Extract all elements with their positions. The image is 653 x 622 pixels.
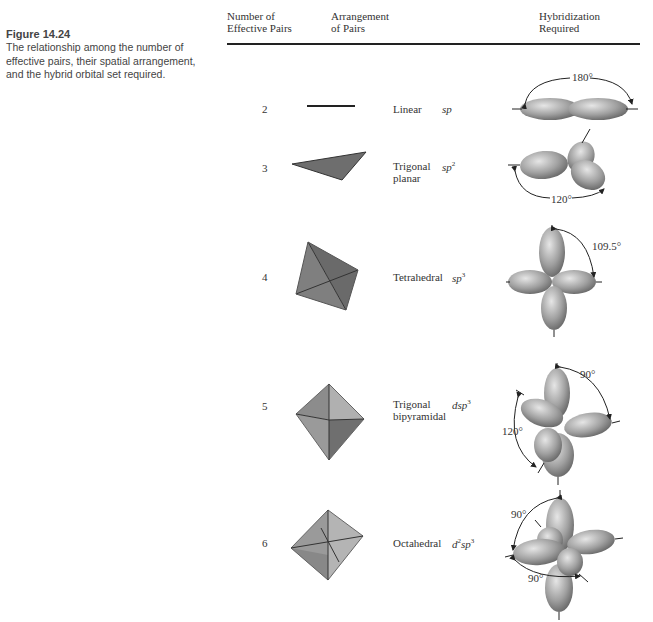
hybridization-label: sp3	[452, 271, 465, 284]
pairs-count: 4	[262, 271, 268, 283]
dsp3-orbital-icon: 90° 120°	[500, 355, 650, 490]
header-line: Hybridization	[539, 10, 600, 22]
hyb-base: sp	[442, 103, 452, 115]
header-line: Number of	[227, 10, 292, 22]
sp3-orbital-icon: 109.5°	[510, 225, 650, 335]
arrangement-label: Trigonal bipyramidal	[393, 398, 446, 422]
arrangement-label: Linear	[393, 103, 422, 115]
hyb-base: sp	[452, 272, 462, 284]
arrangement-label: Tetrahedral	[393, 271, 443, 283]
octahedral-shape-icon	[291, 510, 365, 582]
arrangement-line: Linear	[393, 103, 422, 115]
pairs-count: 5	[262, 400, 268, 412]
hyb-base: sp	[461, 538, 471, 550]
pairs-count: 6	[262, 537, 268, 549]
angle-label: 180°	[572, 71, 593, 83]
header-arrangement: Arrangement of Pairs	[331, 10, 389, 34]
header-hybridization: Hybridization Required	[539, 10, 600, 34]
hybridization-label: sp	[442, 103, 452, 115]
header-line: Effective Pairs	[227, 22, 292, 34]
hyb-superscript: 3	[462, 271, 466, 279]
arrangement-label: Octahedral	[393, 537, 441, 549]
header-line: Required	[539, 22, 600, 34]
hyb-superscript: 3	[467, 398, 471, 406]
hyb-superscript: 3	[471, 537, 475, 545]
figure-title: Figure 14.24	[6, 28, 206, 41]
header-effective-pairs: Number of Effective Pairs	[227, 10, 292, 34]
tetrahedral-shape-icon	[294, 240, 360, 312]
linear-shape-icon	[305, 100, 357, 110]
angle-label: 90°	[511, 508, 526, 520]
pairs-count: 3	[262, 162, 268, 174]
hyb-base: sp	[442, 161, 452, 173]
arrangement-line: bipyramidal	[393, 410, 446, 422]
arrangement-line: Trigonal	[393, 160, 431, 172]
angle-label: 120°	[502, 425, 523, 437]
figure-description: The relationship among the number of eff…	[6, 41, 206, 81]
header-rule	[227, 43, 640, 45]
trigonal-bipyramidal-shape-icon	[296, 384, 366, 460]
hybridization-label: dsp3	[452, 398, 471, 411]
angle-label: 90°	[528, 572, 543, 584]
angle-label: 90°	[580, 368, 595, 380]
header-line: Arrangement	[331, 10, 389, 22]
hybridization-label: sp2	[442, 160, 455, 173]
arrangement-line: Tetrahedral	[393, 271, 443, 283]
sp-orbital-icon: 180°	[500, 70, 650, 130]
hyb-base: sp	[458, 399, 468, 411]
trigonal-planar-shape-icon	[290, 150, 370, 190]
arrangement-line: Trigonal	[393, 398, 446, 410]
hyb-superscript: 2	[452, 160, 456, 168]
figure-caption: Figure 14.24 The relationship among the …	[6, 28, 206, 81]
sp2-orbital-icon: 120°	[500, 135, 650, 205]
header-line: of Pairs	[331, 22, 389, 34]
arrangement-label: Trigonal planar	[393, 160, 431, 184]
arrangement-line: Octahedral	[393, 537, 441, 549]
d2sp3-orbital-icon: 90° 90°	[495, 490, 650, 622]
arrangement-line: planar	[393, 172, 431, 184]
angle-label: 109.5°	[592, 240, 621, 252]
angle-label: 120°	[551, 193, 572, 205]
hybridization-label: d2sp3	[452, 537, 474, 550]
pairs-count: 2	[262, 103, 268, 115]
